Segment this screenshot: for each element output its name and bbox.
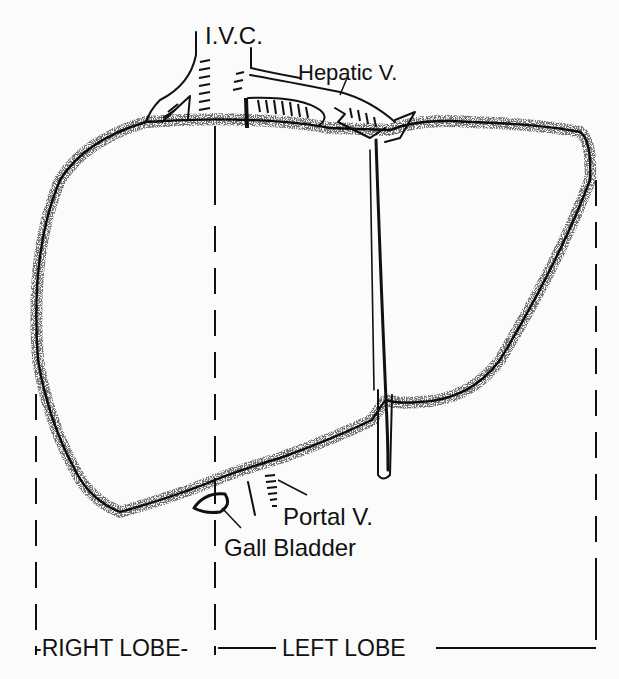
lobe-boundaries (36, 126, 596, 655)
liver-outline (36, 119, 590, 512)
ivc-label: I.V.C. (205, 22, 263, 49)
portal-vein-shape (248, 475, 277, 515)
right-lobe-label: -RIGHT LOBE- (34, 635, 188, 661)
gall-bladder-shape (194, 494, 228, 513)
gall-bladder-label: Gall Bladder (224, 534, 356, 561)
left-lobe-label: LEFT LOBE (282, 635, 406, 661)
hepatic-vein-label: Hepatic V. (298, 60, 397, 85)
falciform-ligament (370, 140, 392, 479)
portal-vein-label: Portal V. (283, 503, 373, 530)
liver-diagram: I.V.C. Hepatic V. Portal V. Gall Bladder… (0, 0, 619, 679)
